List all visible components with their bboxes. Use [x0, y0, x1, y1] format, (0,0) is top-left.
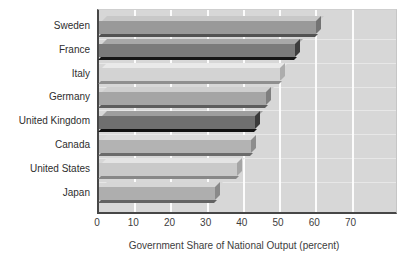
bar-bot: [98, 200, 217, 203]
bar-bot: [98, 176, 239, 179]
bar-cap: [237, 158, 242, 176]
category-label-italy: Italy: [0, 68, 90, 80]
category-label-sweden: Sweden: [0, 20, 90, 32]
bar-face: [99, 116, 255, 129]
bar-france: [99, 44, 295, 57]
bar-bot: [98, 129, 257, 132]
bar-face: [99, 92, 266, 105]
category-label-united-states: United States: [0, 163, 90, 175]
bar-germany: [99, 92, 266, 105]
bar-top: [102, 158, 245, 163]
category-label-canada: Canada: [0, 139, 90, 151]
bar-united-kingdom: [99, 116, 255, 129]
gridline-60: [315, 10, 317, 212]
bar-top: [102, 135, 259, 140]
bar-top: [102, 16, 324, 21]
bar-united-states: [99, 163, 237, 176]
x-tick-label-60: 60: [296, 217, 332, 229]
bar-cap: [215, 182, 220, 200]
bar-cap: [295, 39, 300, 57]
bar-japan: [99, 187, 215, 200]
bar-cap: [280, 63, 285, 81]
category-label-japan: Japan: [0, 187, 90, 199]
x-tick-label-70: 70: [333, 217, 369, 229]
bar-face: [99, 44, 295, 57]
bar-sweden: [99, 21, 316, 34]
bar-bot: [98, 57, 297, 60]
bar-canada: [99, 140, 251, 153]
bar-face: [99, 187, 215, 200]
bar-face: [99, 163, 237, 176]
bar-top: [102, 111, 263, 116]
bar-chart: SwedenFranceItalyGermanyUnited KingdomCa…: [0, 0, 407, 264]
x-tick-label-0: 0: [79, 217, 115, 229]
bar-face: [99, 140, 251, 153]
bar-cap: [251, 135, 256, 153]
bar-top: [102, 182, 223, 187]
category-label-united-kingdom: United Kingdom: [0, 115, 90, 127]
x-tick-label-20: 20: [151, 217, 187, 229]
x-axis-title: Government Share of National Output (per…: [84, 240, 384, 251]
bar-bot: [98, 81, 282, 84]
bar-bot: [98, 34, 318, 37]
x-tick-label-30: 30: [188, 217, 224, 229]
x-tick-label-40: 40: [224, 217, 260, 229]
category-label-france: France: [0, 44, 90, 56]
bar-top: [102, 63, 288, 68]
x-tick-label-10: 10: [115, 217, 151, 229]
bar-cap: [316, 16, 321, 34]
bar-bot: [98, 153, 253, 156]
bar-italy: [99, 68, 280, 81]
x-tick-label-50: 50: [260, 217, 296, 229]
bar-face: [99, 68, 280, 81]
plot-area: [97, 9, 397, 214]
gridline-70: [352, 10, 354, 212]
bar-face: [99, 21, 316, 34]
category-label-germany: Germany: [0, 91, 90, 103]
bar-top: [102, 87, 274, 92]
bar-bot: [98, 105, 268, 108]
bar-top: [102, 39, 303, 44]
